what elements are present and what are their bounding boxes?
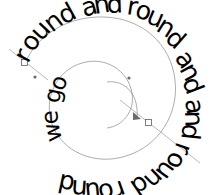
glyph: d [106, 0, 123, 19]
glyph: d [175, 122, 207, 141]
path-node-end-right[interactable] [146, 120, 152, 126]
path-node-handle-left[interactable] [33, 75, 36, 78]
vector-canvas[interactable]: r o u n d a n d r o u n d a n d a n d r … [0, 0, 213, 195]
path-node-inner-upper[interactable] [127, 76, 130, 79]
spiral-artwork-svg[interactable]: r o u n d a n d r o u n d a n d a n d r … [0, 0, 213, 195]
glyph: e [36, 109, 63, 125]
